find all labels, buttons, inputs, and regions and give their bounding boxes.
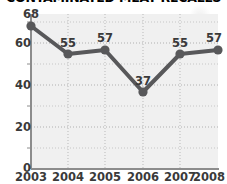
- y-tick-label-20: 20: [5, 122, 31, 133]
- data-point-2006: [138, 87, 147, 96]
- x-tick-label-2004: 2004: [50, 171, 86, 183]
- data-point-2005: [100, 45, 109, 54]
- data-label-2008: 57: [200, 32, 227, 44]
- data-point-2007: [175, 49, 184, 58]
- data-label-2005: 57: [91, 32, 119, 44]
- data-label-2003: 68: [17, 8, 45, 20]
- x-tick-label-2003: 2003: [13, 171, 49, 183]
- x-tick-label-2006: 2006: [125, 171, 161, 183]
- line-chart-figure: CONTAMINATED MEAT RECALLS: [0, 0, 227, 184]
- data-label-2006: 37: [129, 75, 157, 87]
- data-label-2004: 55: [54, 37, 82, 49]
- plot-area: [0, 0, 227, 184]
- y-tick-label-40: 40: [5, 80, 31, 91]
- data-point-2008: [213, 45, 222, 54]
- data-point-2003: [26, 21, 35, 30]
- data-label-2007: 55: [166, 37, 194, 49]
- x-tick-label-2008: 2008: [191, 171, 227, 183]
- x-tick-label-2005: 2005: [87, 171, 123, 183]
- data-point-2004: [63, 49, 72, 58]
- y-tick-label-60: 60: [5, 38, 31, 49]
